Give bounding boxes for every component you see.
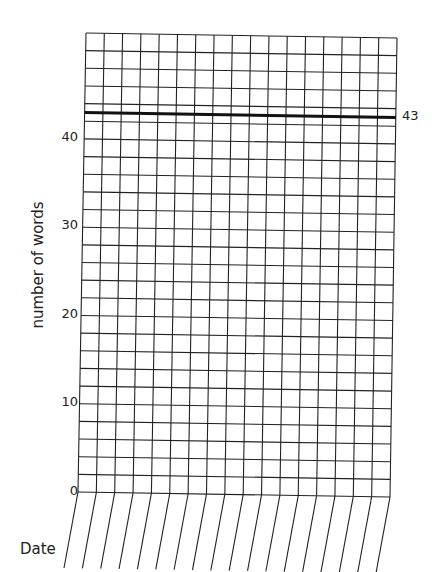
date-entry-line — [339, 496, 353, 572]
grid-row-line — [79, 457, 391, 462]
x-axis-label: Date — [20, 540, 56, 558]
date-entry-line — [64, 492, 78, 568]
grid-row-line — [79, 421, 391, 426]
y-tick-40: 40 — [61, 129, 78, 144]
grid-row-line — [86, 51, 397, 56]
grid-row-line — [85, 68, 396, 73]
date-entry-line — [321, 496, 335, 572]
grid-row-line — [84, 174, 395, 179]
grid-row-line — [80, 368, 392, 373]
grid-row-line — [83, 227, 394, 232]
grid-row-line — [82, 280, 394, 285]
date-entry-line — [376, 497, 390, 572]
grid-row-line — [83, 192, 394, 197]
grid-row-line — [80, 351, 392, 356]
grid-row-line — [80, 404, 392, 409]
y-tick-30: 30 — [61, 217, 78, 232]
date-entry-line — [284, 496, 298, 572]
grid-row-line — [84, 157, 395, 162]
grid-row-line — [85, 86, 396, 91]
y-tick-10: 10 — [61, 394, 78, 409]
grid-row-line — [81, 333, 393, 338]
grid-row-line — [83, 210, 394, 215]
goal-line — [85, 112, 396, 117]
date-entry-line — [248, 495, 262, 571]
grid-row-line — [82, 263, 394, 268]
grid-row-line — [81, 315, 393, 320]
grid-row-line — [86, 33, 397, 38]
grid-row-line — [79, 439, 391, 444]
grid-row-line — [85, 104, 396, 109]
y-tick-20: 20 — [61, 306, 78, 321]
date-entry-line — [303, 496, 317, 572]
grid-row-line — [78, 492, 390, 497]
date-entry-line — [137, 493, 151, 569]
date-entry-line — [174, 494, 188, 570]
y-axis-label: number of words — [29, 201, 47, 328]
y-tick-0: 0 — [70, 483, 78, 498]
chart-grid — [0, 0, 440, 572]
date-entry-line — [358, 497, 372, 572]
date-entry-line — [211, 494, 225, 570]
grid-row-line — [84, 139, 395, 144]
grid-row-line — [80, 386, 392, 391]
date-entry-line — [266, 495, 280, 571]
grid-row-line — [81, 298, 393, 303]
date-entry-line — [229, 495, 243, 571]
date-entry-line — [82, 492, 96, 568]
date-entry-line — [119, 493, 133, 569]
goal-line-label: 43 — [402, 108, 419, 123]
grid-row-line — [78, 474, 390, 479]
grid-row-line — [84, 121, 395, 126]
date-entry-line — [101, 493, 115, 569]
grid-row-line — [82, 245, 393, 250]
date-entry-line — [192, 494, 206, 570]
date-entry-line — [156, 493, 170, 569]
